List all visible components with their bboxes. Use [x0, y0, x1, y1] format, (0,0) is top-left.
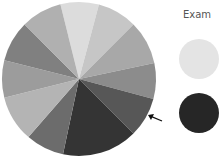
legend-swatches [179, 39, 219, 133]
legend-swatch-2 [179, 93, 219, 133]
legend-swatch-1 [179, 39, 219, 79]
pie-slices [2, 2, 156, 156]
arrow-annotation [148, 114, 162, 121]
arrow-shaft [151, 116, 162, 121]
pie-chart [0, 0, 221, 160]
legend-title: Exam [183, 9, 211, 20]
